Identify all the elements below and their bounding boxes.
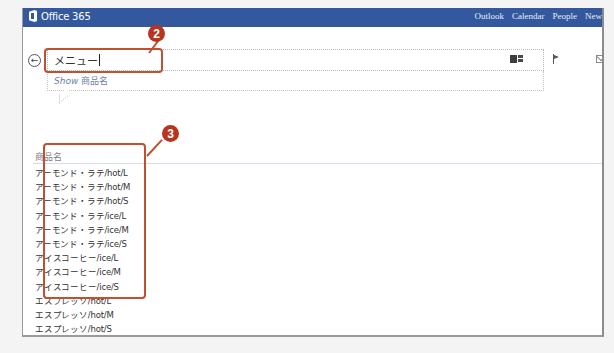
flag-icon[interactable]: [552, 54, 560, 64]
search-suggestion[interactable]: Show 商品名: [47, 71, 544, 91]
nav-calendar[interactable]: Calendar: [512, 11, 544, 21]
brand-title: Office 365: [41, 11, 91, 22]
list-item[interactable]: エスプレッソ/hot/M: [35, 308, 130, 322]
toolbar-icons: [510, 54, 604, 64]
annotation-box-list: [43, 143, 146, 299]
list-item[interactable]: エスプレッソ/hot/S: [35, 322, 130, 336]
back-arrow-icon[interactable]: ←: [28, 54, 41, 67]
app-nav: Outlook Calendar People New: [475, 11, 603, 21]
office365-header-bar: Office 365 Outlook Calendar People New: [23, 8, 602, 27]
suggestion-prefix: Show: [54, 76, 78, 86]
annotation-box-search: [44, 48, 163, 73]
suggestion-value: 商品名: [81, 74, 108, 87]
tile-view-icon[interactable]: [510, 55, 523, 63]
office-logo-icon: [29, 10, 37, 22]
annotation-badge-2: 2: [148, 25, 165, 42]
mail-icon[interactable]: [596, 55, 604, 63]
annotation-badge-3: 3: [162, 125, 179, 142]
nav-people[interactable]: People: [553, 11, 578, 21]
nav-newsfeed[interactable]: New: [585, 11, 602, 21]
brand[interactable]: Office 365: [29, 10, 91, 22]
nav-outlook[interactable]: Outlook: [475, 11, 505, 21]
